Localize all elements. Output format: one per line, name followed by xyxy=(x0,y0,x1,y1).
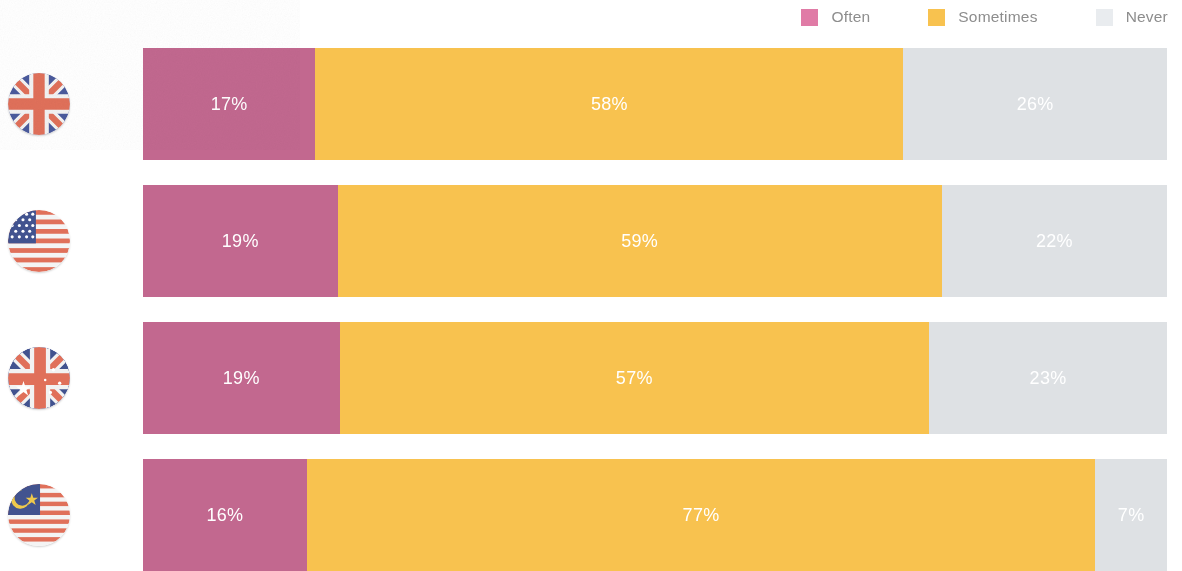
bar-segment-value: 57% xyxy=(616,368,653,389)
flag-australia-icon xyxy=(8,347,70,409)
bar-segment-often[interactable]: 19% xyxy=(143,322,340,434)
bar-segment-often[interactable]: 16% xyxy=(143,459,307,571)
bar-segment-sometimes[interactable]: 59% xyxy=(338,185,942,297)
stacked-bar: 17%58%26% xyxy=(143,48,1167,160)
bar-segment-value: 26% xyxy=(1017,94,1054,115)
stacked-bar: 19%59%22% xyxy=(143,185,1167,297)
chart-row: 19%57%23% xyxy=(0,322,1182,434)
stacked-bar: 19%57%23% xyxy=(143,322,1167,434)
bar-segment-never[interactable]: 22% xyxy=(942,185,1167,297)
bar-segment-never[interactable]: 7% xyxy=(1095,459,1167,571)
bar-segment-value: 19% xyxy=(223,368,260,389)
flag-usa-icon xyxy=(8,210,70,272)
chart-row: 19%59%22% xyxy=(0,185,1182,297)
chart-row: 16%77%7% xyxy=(0,459,1182,571)
bar-segment-sometimes[interactable]: 77% xyxy=(307,459,1095,571)
bar-segment-often[interactable]: 19% xyxy=(143,185,338,297)
bar-segment-value: 58% xyxy=(591,94,628,115)
bar-segment-never[interactable]: 23% xyxy=(929,322,1167,434)
flag-malaysia-icon xyxy=(8,484,70,546)
bar-segment-value: 23% xyxy=(1030,368,1067,389)
bar-segment-value: 16% xyxy=(206,505,243,526)
chart-row: 17%58%26% xyxy=(0,48,1182,160)
bar-segment-often[interactable]: 17% xyxy=(143,48,315,160)
bar-segment-value: 59% xyxy=(621,231,658,252)
flag-uk-icon xyxy=(8,73,70,135)
bar-segment-never[interactable]: 26% xyxy=(903,48,1167,160)
bar-segment-sometimes[interactable]: 58% xyxy=(315,48,903,160)
bar-segment-sometimes[interactable]: 57% xyxy=(340,322,930,434)
bar-segment-value: 7% xyxy=(1118,505,1145,526)
bar-segment-value: 77% xyxy=(683,505,720,526)
stacked-bar: 16%77%7% xyxy=(143,459,1167,571)
bar-segment-value: 22% xyxy=(1036,231,1073,252)
bar-segment-value: 17% xyxy=(211,94,248,115)
bar-segment-value: 19% xyxy=(222,231,259,252)
